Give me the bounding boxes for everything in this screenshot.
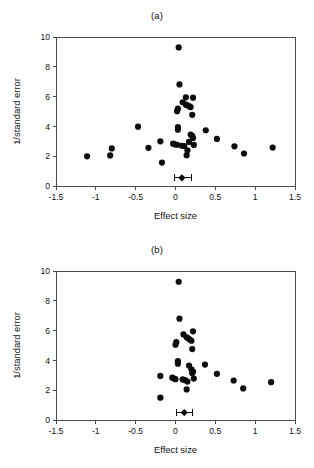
y-tick-label: 6 <box>45 326 50 336</box>
data-point <box>188 104 194 110</box>
y-tick-label: 6 <box>45 92 50 102</box>
data-point <box>214 136 220 142</box>
data-point <box>172 342 178 348</box>
data-point <box>188 338 194 344</box>
data-point <box>189 346 195 352</box>
summary-diamond <box>181 409 188 416</box>
data-point <box>240 385 246 391</box>
data-point <box>214 371 220 377</box>
data-point <box>184 152 190 158</box>
data-point <box>189 370 195 376</box>
x-tick-label: -0.5 <box>128 192 143 202</box>
y-tick-label: 4 <box>45 356 50 366</box>
x-tick-label: -1.5 <box>49 426 64 436</box>
data-point <box>241 150 247 156</box>
data-point <box>174 108 180 114</box>
data-point <box>231 377 237 383</box>
x-axis-title: Effect size <box>154 444 197 455</box>
data-point <box>175 361 181 367</box>
y-tick-label: 0 <box>45 415 50 425</box>
summary-diamond <box>178 174 185 181</box>
y-tick-label: 10 <box>40 266 50 276</box>
x-tick-label: 0 <box>173 426 178 436</box>
data-point <box>107 152 113 158</box>
x-tick-label: -0.5 <box>128 426 143 436</box>
caption-strip <box>0 460 314 468</box>
data-point <box>175 127 181 133</box>
data-point <box>176 81 182 87</box>
data-point <box>202 361 208 367</box>
x-tick-label: 0 <box>173 192 178 202</box>
data-point <box>203 127 209 133</box>
data-point <box>184 378 190 384</box>
x-tick-label: 1.5 <box>289 192 301 202</box>
x-tick-label: 1 <box>253 426 258 436</box>
x-tick-label: 1.5 <box>289 426 301 436</box>
y-tick-label: 10 <box>40 32 50 42</box>
y-tick-label: 4 <box>45 122 50 132</box>
x-tick-label: -1 <box>92 426 100 436</box>
data-point <box>84 153 90 159</box>
data-point <box>191 375 197 381</box>
data-point <box>176 279 182 285</box>
panel-a-plot: 0246810-1.5-1-0.500.511.5Effect size1/st… <box>0 0 314 234</box>
data-point <box>157 373 163 379</box>
x-tick-label: -1.5 <box>49 192 64 202</box>
data-point <box>145 145 151 151</box>
x-axis-title: Effect size <box>154 210 197 221</box>
data-point <box>184 386 190 392</box>
data-point <box>231 143 237 149</box>
data-point <box>268 379 274 385</box>
data-point <box>159 160 165 166</box>
data-point <box>157 138 163 144</box>
y-tick-label: 8 <box>45 296 50 306</box>
y-tick-label: 0 <box>45 181 50 191</box>
data-point <box>109 145 115 151</box>
data-point <box>135 124 141 130</box>
y-axis-title: 1/standard error <box>11 78 22 145</box>
x-tick-label: 0.5 <box>209 192 221 202</box>
data-point <box>189 112 195 118</box>
data-point <box>190 328 196 334</box>
y-tick-label: 8 <box>45 62 50 72</box>
y-tick-label: 2 <box>45 151 50 161</box>
panel-b-plot: 0246810-1.5-1-0.500.511.5Effect size1/st… <box>0 234 314 468</box>
y-tick-label: 2 <box>45 385 50 395</box>
x-tick-label: -1 <box>92 192 100 202</box>
data-point <box>190 95 196 101</box>
x-tick-label: 1 <box>253 192 258 202</box>
funnel-plot-figure: (a) 0246810-1.5-1-0.500.511.5Effect size… <box>0 0 314 468</box>
data-point <box>172 376 178 382</box>
y-axis-title: 1/standard error <box>11 312 22 379</box>
panel-b: (b) 0246810-1.5-1-0.500.511.5Effect size… <box>0 234 314 468</box>
panel-a: (a) 0246810-1.5-1-0.500.511.5Effect size… <box>0 0 314 234</box>
x-tick-label: 0.5 <box>209 426 221 436</box>
data-point <box>157 395 163 401</box>
data-point <box>191 142 197 148</box>
data-point <box>176 44 182 50</box>
data-point <box>176 316 182 322</box>
data-point <box>270 144 276 150</box>
